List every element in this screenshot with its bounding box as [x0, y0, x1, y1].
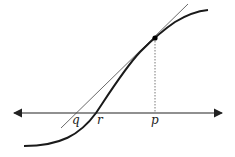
diagram-canvas: q r p — [0, 0, 235, 157]
tangent-line — [61, 4, 188, 128]
tangent-point — [152, 35, 157, 40]
function-curve — [24, 10, 208, 146]
label-r: r — [97, 113, 104, 127]
label-p: p — [151, 113, 159, 127]
label-q: q — [72, 113, 80, 127]
